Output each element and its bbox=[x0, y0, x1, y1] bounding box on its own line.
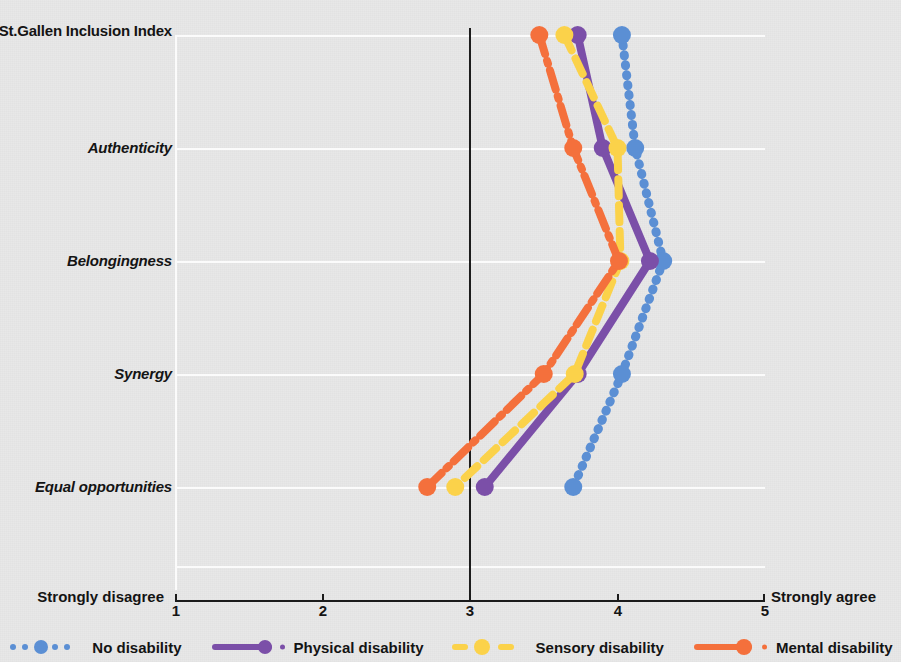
legend-item-no-disability[interactable]: No disability bbox=[8, 639, 181, 656]
data-point bbox=[446, 478, 464, 496]
x-tick-label-5: 5 bbox=[761, 602, 769, 619]
legend-swatch-icon bbox=[8, 640, 86, 654]
x-axis-cap-left bbox=[175, 594, 177, 602]
x-tick-4 bbox=[617, 594, 619, 601]
data-point bbox=[641, 252, 659, 270]
data-point bbox=[535, 365, 553, 383]
x-tick-label-1: 1 bbox=[172, 602, 180, 619]
legend-item-sensory-disability[interactable]: Sensory disability bbox=[452, 639, 664, 656]
x-tick-2 bbox=[322, 594, 324, 601]
data-point bbox=[530, 26, 548, 44]
legend-swatch-icon bbox=[692, 640, 770, 654]
x-tick-label-2: 2 bbox=[319, 602, 327, 619]
data-point bbox=[566, 365, 584, 383]
chart-legend: No disabilityPhysical disabilitySensory … bbox=[0, 634, 901, 660]
data-point bbox=[613, 26, 631, 44]
data-point bbox=[564, 478, 582, 496]
legend-item-physical-disability[interactable]: Physical disability bbox=[210, 639, 424, 656]
legend-item-mental-disability[interactable]: Mental disability bbox=[692, 639, 893, 656]
data-point bbox=[626, 139, 644, 157]
data-point bbox=[613, 365, 631, 383]
legend-label: Sensory disability bbox=[536, 639, 664, 656]
data-point bbox=[610, 252, 628, 270]
x-axis-cap-right bbox=[763, 594, 765, 602]
data-point bbox=[476, 478, 494, 496]
scale-anchor-high: Strongly agree bbox=[771, 588, 876, 605]
data-point bbox=[609, 139, 627, 157]
x-tick-label-3: 3 bbox=[466, 602, 474, 619]
legend-swatch-icon bbox=[452, 640, 530, 654]
legend-label: Mental disability bbox=[776, 639, 893, 656]
series-plot-area bbox=[0, 0, 901, 662]
data-point bbox=[418, 478, 436, 496]
inclusion-index-chart: St.Gallen Inclusion Index Authenticity B… bbox=[0, 0, 901, 662]
x-tick-label-4: 4 bbox=[614, 602, 622, 619]
x-tick-3 bbox=[469, 594, 471, 601]
legend-label: No disability bbox=[92, 639, 181, 656]
data-point bbox=[555, 26, 573, 44]
legend-swatch-icon bbox=[210, 640, 288, 654]
legend-label: Physical disability bbox=[294, 639, 424, 656]
data-point bbox=[564, 139, 582, 157]
scale-anchor-low: Strongly disagree bbox=[37, 588, 164, 605]
